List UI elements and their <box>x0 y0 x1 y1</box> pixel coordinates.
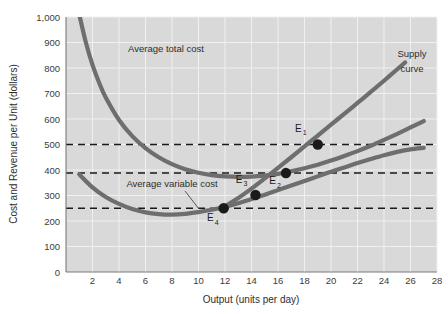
y-tick-label: 700 <box>44 88 60 99</box>
y-tick-label: 600 <box>44 114 60 125</box>
x-tick-label: 26 <box>405 275 416 286</box>
economics-cost-revenue-chart: E1E2E3E4 01002003004005006007008009001,0… <box>0 0 448 314</box>
y-tick-label: 200 <box>44 216 60 227</box>
x-tick-label: 14 <box>246 275 257 286</box>
x-tick-label: 24 <box>379 275 390 286</box>
equilibrium-point-e3 <box>250 190 260 200</box>
y-tick-label: 0 <box>55 267 60 278</box>
point-label-subscript-e4: 4 <box>215 219 219 226</box>
y-tick-label: 300 <box>44 190 60 201</box>
x-tick-label: 8 <box>169 275 174 286</box>
point-label-subscript-e3: 3 <box>243 180 247 187</box>
x-tick-label: 2 <box>90 275 95 286</box>
y-axis-title: Cost and Revenue per Unit (dollars) <box>8 64 19 224</box>
x-tick-label: 18 <box>299 275 310 286</box>
x-tick-label: 10 <box>193 275 204 286</box>
x-tick-label: 20 <box>326 275 337 286</box>
x-tick-label: 6 <box>143 275 148 286</box>
x-axis-title: Output (units per day) <box>203 294 300 305</box>
x-tick-label: 16 <box>273 275 284 286</box>
chart-canvas: E1E2E3E4 01002003004005006007008009001,0… <box>0 0 448 314</box>
equilibrium-point-e2 <box>281 168 291 178</box>
point-label-e2: E <box>269 175 276 186</box>
y-tick-label: 800 <box>44 63 60 74</box>
equilibrium-point-e4 <box>218 203 228 213</box>
avc-curve-label: Average variable cost <box>126 178 218 189</box>
y-tick-label: 900 <box>44 37 60 48</box>
supply-curve-label-line2: curve <box>400 63 423 74</box>
y-tick-label: 500 <box>44 139 60 150</box>
x-axis-tick-labels: 246810121416182022242628 <box>90 275 442 286</box>
x-tick-label: 12 <box>220 275 231 286</box>
point-label-e3: E <box>236 174 243 185</box>
equilibrium-point-e1 <box>313 139 323 149</box>
point-label-e4: E <box>207 212 214 223</box>
y-tick-label: 1,000 <box>36 12 60 23</box>
y-axis-tick-labels: 01002003004005006007008009001,000 <box>36 12 60 278</box>
x-tick-label: 4 <box>116 275 121 286</box>
x-tick-label: 28 <box>432 275 443 286</box>
x-tick-label: 22 <box>352 275 363 286</box>
y-tick-label: 100 <box>44 241 60 252</box>
atc-curve-label: Average total cost <box>128 43 204 54</box>
point-label-subscript-e2: 2 <box>277 182 281 189</box>
point-label-e1: E <box>295 123 302 134</box>
point-label-subscript-e1: 1 <box>303 129 307 136</box>
y-tick-label: 400 <box>44 165 60 176</box>
supply-curve-label-line1: Supply <box>397 48 426 59</box>
